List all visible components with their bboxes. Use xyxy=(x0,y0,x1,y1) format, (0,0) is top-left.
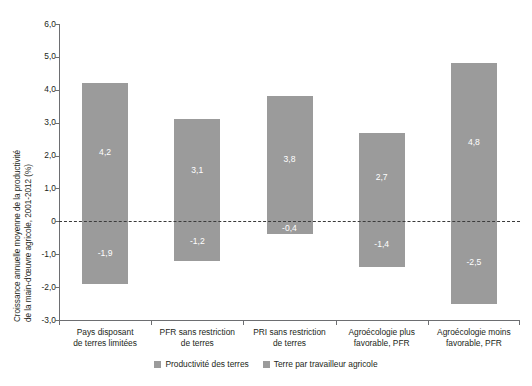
x-axis-tick-mark xyxy=(519,320,520,325)
category-label-line2: de terres xyxy=(145,338,249,349)
y-axis-tick-mark xyxy=(55,156,59,157)
bar-value-label: 3,8 xyxy=(267,154,313,164)
bar-terre-par-travailleur-agricole: -1,4 xyxy=(359,221,405,267)
legend-item: Terre par travailleur agricole xyxy=(263,359,378,369)
y-axis-line xyxy=(59,24,60,320)
bar-productivite-des-terres: 4,2 xyxy=(82,83,128,221)
y-axis-tick-label: 4,0 xyxy=(28,85,56,94)
chart-legend: Productivité des terresTerre par travail… xyxy=(0,359,532,369)
bar-value-label: -2,5 xyxy=(451,257,497,267)
bar-value-label: -1,2 xyxy=(174,236,220,246)
y-axis-tick-mark xyxy=(55,123,59,124)
bar-terre-par-travailleur-agricole: -2,5 xyxy=(451,221,497,303)
y-axis-title-line1: Croissance annuelle moyenne de la produc… xyxy=(12,150,23,322)
x-axis-category-label: PRI sans restrictionde terres xyxy=(237,327,341,348)
y-axis-tick-label: -1,0 xyxy=(28,250,56,259)
y-axis-tick-label: 3,0 xyxy=(28,118,56,127)
legend-item: Productivité des terres xyxy=(154,359,248,369)
x-axis-tick-mark xyxy=(59,320,60,325)
bar-terre-par-travailleur-agricole: -1,2 xyxy=(174,221,220,260)
y-axis-tick-labels: 6,05,04,03,02,01,00-1,0-2,0-3,0 xyxy=(28,0,56,330)
bar-value-label: 2,7 xyxy=(359,172,405,182)
y-axis-tick-label: -3,0 xyxy=(28,316,56,325)
bar-productivite-des-terres: 2,7 xyxy=(359,133,405,222)
y-axis-tick-mark xyxy=(55,188,59,189)
y-axis-tick-label: 0 xyxy=(28,217,56,226)
category-label-line2: de terres limitées xyxy=(53,338,157,349)
category-label-line2: favorable, PFR xyxy=(330,338,434,349)
legend-swatch-icon xyxy=(263,361,270,368)
x-axis-tick-mark xyxy=(243,320,244,325)
y-axis-tick-label: -2,0 xyxy=(28,283,56,292)
category-label-line2: favorable, PFR xyxy=(422,338,526,349)
category-label-line1: Agroécologie moins xyxy=(422,327,526,338)
y-axis-tick-mark xyxy=(55,24,59,25)
x-axis-tick-mark xyxy=(151,320,152,325)
bar-terre-par-travailleur-agricole: -0,4 xyxy=(267,221,313,234)
x-axis-category-label: Agroécologie moinsfavorable, PFR xyxy=(422,327,526,348)
y-axis-tick-label: 2,0 xyxy=(28,151,56,160)
x-axis-tick-mark xyxy=(428,320,429,325)
y-axis-tick-label: 5,0 xyxy=(28,52,56,61)
x-axis-tick-mark xyxy=(336,320,337,325)
legend-label: Terre par travailleur agricole xyxy=(274,359,378,369)
bar-value-label: 3,1 xyxy=(174,165,220,175)
y-axis-tick-mark xyxy=(55,254,59,255)
legend-label: Productivité des terres xyxy=(165,359,248,369)
bar-terre-par-travailleur-agricole: -1,9 xyxy=(82,221,128,283)
bar-productivite-des-terres: 4,8 xyxy=(451,63,497,221)
chart-figure: Croissance annuelle moyenne de la produc… xyxy=(0,0,532,386)
bar-value-label: -1,9 xyxy=(82,248,128,258)
bar-value-label: -0,4 xyxy=(267,223,313,233)
category-label-line2: de terres xyxy=(237,338,341,349)
x-axis-line xyxy=(59,320,520,321)
x-axis-category-label: Pays disposantde terres limitées xyxy=(53,327,157,348)
bar-productivite-des-terres: 3,1 xyxy=(174,119,220,221)
y-axis-tick-mark xyxy=(55,57,59,58)
bar-productivite-des-terres: 3,8 xyxy=(267,96,313,221)
x-axis-category-label: PFR sans restrictionde terres xyxy=(145,327,249,348)
bar-value-label: 4,8 xyxy=(451,137,497,147)
category-label-line1: PRI sans restriction xyxy=(237,327,341,338)
category-label-line1: PFR sans restriction xyxy=(145,327,249,338)
y-axis-tick-label: 1,0 xyxy=(28,184,56,193)
bar-value-label: 4,2 xyxy=(82,147,128,157)
x-axis-category-label: Agroécologie plusfavorable, PFR xyxy=(330,327,434,348)
category-label-line1: Agroécologie plus xyxy=(330,327,434,338)
zero-reference-line xyxy=(59,221,520,222)
bar-value-label: -1,4 xyxy=(359,239,405,249)
legend-swatch-icon xyxy=(154,361,161,368)
y-axis-tick-label: 6,0 xyxy=(28,20,56,29)
plot-area: 4,2-1,93,1-1,23,8-0,42,7-1,44,8-2,5 xyxy=(59,24,520,320)
category-label-line1: Pays disposant xyxy=(53,327,157,338)
y-axis-tick-mark xyxy=(55,287,59,288)
y-axis-tick-mark xyxy=(55,90,59,91)
